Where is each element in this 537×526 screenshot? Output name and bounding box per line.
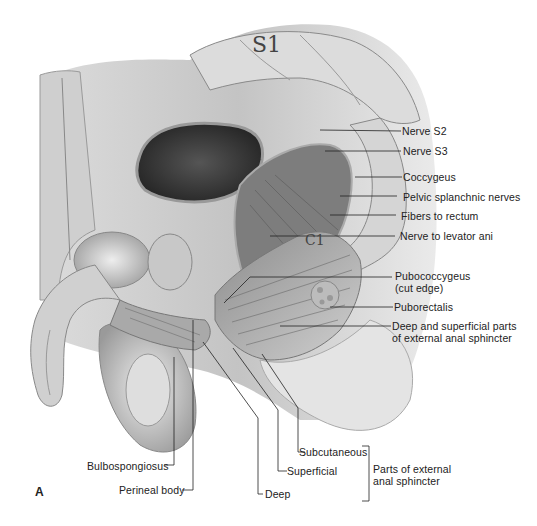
label-pelvic-splanchnic-nerves: Pelvic splanchnic nerves [403, 191, 520, 203]
label-nerve-s2: Nerve S2 [402, 125, 447, 137]
label-pubococcygeus-line1: Pubococcygeus [395, 270, 470, 282]
label-coccygeus: Coccygeus [403, 171, 456, 183]
label-bulbospongiosus: Bulbospongiosus [87, 460, 168, 472]
bone-label-s1: S1 [252, 32, 281, 57]
label-nerve-to-levator-ani: Nerve to levator ani [400, 230, 493, 242]
label-perineal-body: Perineal body [119, 484, 185, 496]
label-deep-superficial-parts: Deep and superficial parts of external a… [392, 320, 517, 344]
label-superficial: Superficial [287, 465, 337, 477]
label-nerve-s3: Nerve S3 [403, 145, 448, 157]
testis [126, 354, 170, 426]
label-puborectalis: Puborectalis [394, 301, 453, 313]
bracket-label-line1: Parts of external [373, 463, 451, 475]
label-subcutaneous: Subcutaneous [299, 446, 367, 458]
label-deep-superficial-line2: of external anal sphincter [392, 332, 517, 344]
label-deep-superficial-line1: Deep and superficial parts [392, 320, 517, 332]
panel-letter: A [35, 485, 44, 499]
anatomy-figure: S1 C1 Nerve S2 Nerve S3 Coccygeus Pelvic… [0, 0, 537, 526]
label-parts-of-external-anal-sphincter: Parts of external anal sphincter [373, 463, 451, 487]
label-pubococcygeus-line2: (cut edge) [395, 282, 470, 294]
label-deep: Deep [265, 488, 291, 500]
label-fibers-to-rectum: Fibers to rectum [401, 210, 478, 222]
pelvis-illustration [0, 0, 537, 526]
sphincter-deep-superficial [311, 281, 339, 309]
label-pubococcygeus: Pubococcygeus (cut edge) [395, 270, 470, 294]
bone-label-c1: C1 [305, 232, 325, 248]
bracket-label-line2: anal sphincter [373, 475, 451, 487]
prostate [148, 234, 192, 290]
